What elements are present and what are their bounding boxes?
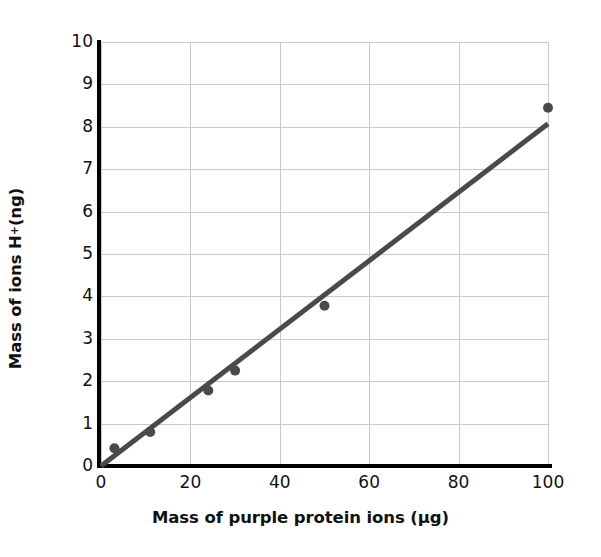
gridline-horizontal (101, 84, 548, 85)
x-axis-title: Mass of purple protein ions (μg) (0, 508, 601, 527)
gridline-vertical (190, 42, 191, 466)
gridline-vertical (459, 42, 460, 466)
plot-area (101, 42, 548, 466)
gridline-horizontal (101, 42, 548, 43)
gridline-horizontal (101, 296, 548, 297)
x-axis-tick-labels: 020406080100 (0, 472, 601, 502)
y-axis-tick-label: 10 (63, 31, 93, 51)
y-axis-tick-label: 9 (63, 73, 93, 93)
x-axis-tick-label: 60 (339, 472, 399, 492)
x-axis-tick-label: 100 (518, 472, 578, 492)
gridline-horizontal (101, 127, 548, 128)
x-axis-tick-label: 80 (429, 472, 489, 492)
y-axis-line (97, 40, 101, 468)
y-axis-title-prefix: Mass of ions H (6, 235, 25, 369)
gridline-horizontal (101, 339, 548, 340)
gridline-vertical (280, 42, 281, 466)
y-axis-tick-label: 1 (63, 413, 93, 433)
gridline-vertical (101, 42, 102, 466)
y-axis-title-suffix: (ng) (6, 188, 25, 226)
gridline-horizontal (101, 169, 548, 170)
y-axis-tick-label: 6 (63, 201, 93, 221)
y-axis-tick-label: 8 (63, 116, 93, 136)
x-axis-tick-label: 0 (71, 472, 131, 492)
gridline-horizontal (101, 424, 548, 425)
y-axis-tick-label: 5 (63, 243, 93, 263)
y-axis-tick-label: 2 (63, 370, 93, 390)
gridline-horizontal (101, 254, 548, 255)
gridline-vertical (548, 42, 549, 466)
y-axis-tick-label: 3 (63, 328, 93, 348)
y-axis-tick-label: 7 (63, 158, 93, 178)
gridline-horizontal (101, 212, 548, 213)
y-axis-tick-label: 4 (63, 285, 93, 305)
gridline-horizontal (101, 381, 548, 382)
x-axis-tick-label: 40 (250, 472, 310, 492)
chart-figure: Mass of ions H+ (ng) 012345678910 020406… (0, 0, 601, 557)
gridline-vertical (369, 42, 370, 466)
x-axis-tick-label: 20 (160, 472, 220, 492)
x-axis-line (97, 464, 552, 468)
